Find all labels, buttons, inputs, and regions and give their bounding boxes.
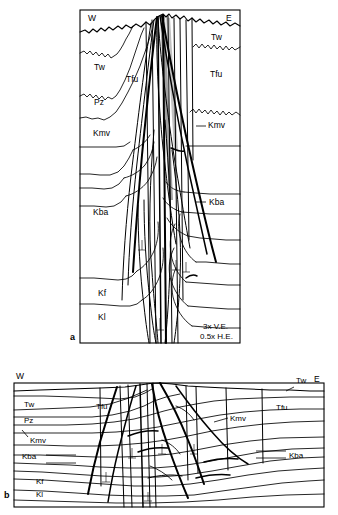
panel-a-drag-fold-e6 bbox=[163, 198, 182, 212]
panel-b-slip-tick-5 bbox=[102, 472, 110, 482]
panel-b-label-kba-east: Kba bbox=[289, 451, 304, 460]
panel-a-fault-v3 bbox=[158, 17, 161, 343]
panel-b-leader-kmv-east bbox=[214, 418, 228, 422]
panel-b-splay-5 bbox=[204, 459, 238, 462]
panel-b-label-tfu-center: Tfu bbox=[96, 402, 108, 411]
panel-b-frame bbox=[14, 383, 324, 507]
panel-a-label-kf-west: Kf bbox=[98, 288, 107, 298]
panel-b-label-kf-west: Kf bbox=[36, 477, 44, 486]
panel-a-label-kba-west: Kba bbox=[93, 207, 108, 217]
panel-b-base-kl bbox=[14, 494, 324, 503]
panel-b-label-tfu-east: Tfu bbox=[276, 403, 288, 412]
panel-b-label-kl-west: Kl bbox=[36, 490, 43, 499]
panel-b-slip-tick-1 bbox=[158, 444, 166, 454]
panel-a-slip-tick-1 bbox=[182, 262, 190, 272]
panel-a-marker-kba-e2 bbox=[182, 212, 240, 214]
panel-a-contact-kf-kl-west bbox=[80, 300, 142, 306]
panel-a-scale-ve: 3x V.E. bbox=[203, 322, 228, 331]
panel-b-label-kmv-east: Kmv bbox=[230, 414, 246, 423]
panel-b-splay-2 bbox=[138, 448, 168, 452]
panel-a-compass-west: W bbox=[88, 13, 96, 23]
panel-b-fault-v1 bbox=[120, 386, 124, 507]
panel-a-contact-tfu-pz-west bbox=[80, 28, 144, 100]
panel-a-contact-kmv-kba-west bbox=[80, 150, 133, 175]
panel-b-fault-v4 bbox=[147, 384, 150, 508]
panel-a-marker-kba-w1 bbox=[80, 178, 124, 189]
panel-a-label-kmv-east: Kmv bbox=[208, 120, 226, 130]
panel-a-marker-kba-e1 bbox=[184, 192, 240, 194]
panel-b-compass-west: W bbox=[16, 371, 24, 381]
panel-a-scale-he: 0.5x H.E. bbox=[200, 332, 233, 341]
panel-a-fault-v8 bbox=[186, 20, 189, 240]
panel-b-fault-v3 bbox=[140, 384, 143, 507]
panel-a-label-pz-west: Pz bbox=[94, 97, 104, 107]
panel-a-label-tfu-east: Tfu bbox=[210, 69, 223, 79]
panel-b-topography bbox=[14, 383, 324, 391]
panel-a-fault-v9 bbox=[192, 18, 193, 160]
panel-a-drag-fold-e1 bbox=[179, 214, 196, 262]
panel-b: W E Tw Pz Kmv Kba Kf Kl Tfu Kmv Tfu Kba … bbox=[4, 371, 324, 507]
panel-b-compass-east: E bbox=[314, 374, 320, 384]
panel-b-label-tw-west: Tw bbox=[24, 400, 34, 409]
panel-a-marker-kba-w2 bbox=[80, 196, 126, 207]
panel-a-contact-pz-kmv-west bbox=[80, 30, 152, 120]
figure-root: W E Tw Tfu Pz Kmv Kba Kf Kl Tw Tfu Kmv K… bbox=[0, 0, 338, 515]
panel-b-label-tw-east: Tw bbox=[296, 376, 306, 385]
panel-b-contact-kmv-top bbox=[14, 409, 324, 433]
panel-b-label-kmv-west: Kmv bbox=[30, 436, 46, 445]
panel-a-hook-2 bbox=[186, 275, 197, 278]
panel-a-contact-tw-tfu-east bbox=[193, 44, 240, 50]
panel-b-label-pz-west: Pz bbox=[24, 416, 33, 425]
panel-a-horizon-east-1 bbox=[196, 262, 240, 264]
panel-b-leader-kmv-west bbox=[22, 430, 28, 437]
panel-b-splay-1 bbox=[128, 431, 158, 436]
panel-a: W E Tw Tfu Pz Kmv Kba Kf Kl Tw Tfu Kmv K… bbox=[70, 10, 240, 343]
panel-b-slip-tick-4 bbox=[144, 492, 152, 501]
panel-a-label-tw-east: Tw bbox=[211, 32, 223, 42]
panel-a-base-kmv-west bbox=[80, 142, 130, 147]
panel-a-horizon-east-3 bbox=[188, 306, 240, 309]
panel-b-letter: b bbox=[4, 490, 10, 500]
panel-a-label-kba-east: Kba bbox=[209, 197, 224, 207]
panel-a-contact-tfu-kmv-east bbox=[190, 109, 240, 115]
panel-a-marker-kba-e3 bbox=[188, 236, 240, 240]
panel-a-label-kl-west: Kl bbox=[98, 312, 106, 322]
panel-a-letter: a bbox=[70, 332, 76, 342]
panel-a-compass-east: E bbox=[226, 13, 232, 23]
panel-a-contact-tw-tfu-west bbox=[80, 26, 133, 58]
panel-a-label-tw-west: Tw bbox=[94, 62, 106, 72]
panel-a-horizon-east-2 bbox=[186, 282, 240, 285]
panel-a-label-tfu-west: Tfu bbox=[126, 74, 139, 84]
panel-b-contact-kf-kl bbox=[14, 480, 324, 496]
panel-a-drag-fold-e2 bbox=[170, 224, 186, 282]
panel-b-label-kba-west: Kba bbox=[22, 452, 37, 461]
panel-a-label-kmv-west: Kmv bbox=[93, 128, 111, 138]
cross-section-figure: W E Tw Tfu Pz Kmv Kba Kf Kl Tw Tfu Kmv K… bbox=[0, 0, 338, 515]
